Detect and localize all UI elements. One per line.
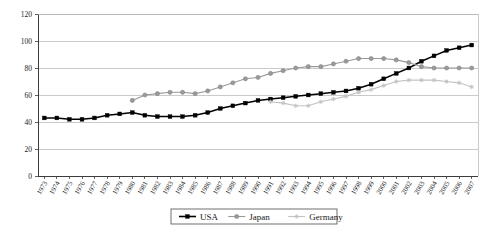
x-tick-label: 1985	[186, 180, 200, 197]
x-tick-label: 1988	[224, 180, 238, 197]
y-tick-label: 80	[25, 64, 33, 73]
x-tick-label: 1976	[73, 180, 87, 197]
y-tick-label: 0	[28, 172, 32, 181]
chart-legend: USAJapanGermany	[171, 209, 343, 224]
x-tick-label: 2004	[425, 180, 439, 197]
x-tick-label: 1978	[98, 180, 112, 197]
legend-label: Germany	[309, 212, 343, 222]
line-chart: 020406080100120 197319741975197619771978…	[0, 0, 493, 233]
x-tick-label: 1973	[35, 180, 49, 197]
y-tick-label: 20	[25, 145, 33, 154]
x-tick-label: 2000	[375, 180, 389, 197]
x-tick-label: 1991	[262, 180, 276, 197]
x-tick-label: 1989	[236, 180, 250, 197]
x-tick-label: 1979	[111, 180, 125, 197]
x-tick-label: 1983	[161, 180, 175, 197]
x-tick-label: 1998	[350, 180, 364, 197]
y-tick-label: 120	[21, 10, 33, 19]
x-tick-label: 1977	[86, 180, 100, 197]
x-tick-label: 1996	[324, 180, 338, 197]
x-tick-label: 1999	[362, 180, 376, 197]
x-tick-label: 1984	[174, 180, 188, 197]
x-tick-label: 1992	[274, 180, 288, 197]
legend-label: USA	[200, 212, 219, 222]
x-tick-label: 1995	[312, 180, 326, 197]
x-tick-label: 1975	[60, 180, 74, 197]
y-tick-label: 100	[21, 37, 33, 46]
y-tick-label: 40	[25, 118, 33, 127]
x-tick-label: 2003	[412, 180, 426, 197]
x-tick-label: 2001	[387, 180, 401, 197]
x-tick-label: 2006	[450, 180, 464, 197]
x-tick-label: 1994	[299, 180, 313, 197]
x-tick-label: 1990	[249, 180, 263, 197]
y-tick-label: 60	[25, 91, 33, 100]
chart-canvas: 020406080100120 197319741975197619771978…	[0, 0, 493, 233]
x-axis-labels: 1973197419751976197719781979198019811982…	[35, 180, 477, 197]
legend-label: Japan	[249, 212, 270, 222]
x-tick-label: 1980	[123, 180, 137, 197]
x-tick-label: 1981	[136, 180, 150, 197]
x-tick-label: 1987	[211, 180, 225, 197]
x-tick-label: 1974	[48, 180, 62, 197]
x-tick-label: 1986	[199, 180, 213, 197]
x-tick-label: 2005	[438, 180, 452, 197]
x-tick-label: 1993	[287, 180, 301, 197]
gridlines-group	[38, 14, 478, 149]
x-tick-label: 1982	[148, 180, 162, 197]
y-axis-ticks: 020406080100120	[21, 10, 38, 181]
x-tick-label: 1997	[337, 180, 351, 197]
x-tick-label: 2007	[463, 180, 477, 197]
data-series-layer	[42, 43, 474, 121]
x-tick-label: 2002	[400, 180, 414, 197]
